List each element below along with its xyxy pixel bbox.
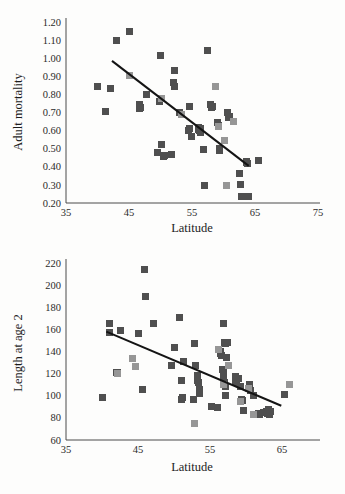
data-point-marker — [236, 170, 243, 177]
data-point-marker — [157, 52, 164, 59]
data-point-marker — [225, 362, 232, 369]
figure-container: 0.200.300.400.500.600.700.800.901.001.10… — [0, 0, 345, 494]
data-point-marker — [126, 28, 133, 35]
data-point-marker — [188, 133, 195, 140]
chart-panel-length-at-age-2: 608010012014016018020022035455565Latitud… — [0, 245, 345, 494]
data-point-marker — [222, 392, 229, 399]
data-point-marker — [176, 314, 183, 321]
data-point-marker — [240, 407, 247, 414]
data-point-marker — [223, 354, 230, 361]
data-point-marker — [107, 85, 114, 92]
data-point-marker — [114, 370, 121, 377]
y-tick-label: 1.20 — [43, 17, 61, 28]
x-tick-label: 45 — [133, 444, 144, 455]
data-point-marker — [132, 363, 139, 370]
data-point-marker — [171, 344, 178, 351]
data-point-marker — [178, 377, 185, 384]
data-point-marker — [113, 37, 120, 44]
x-tick-label: 65 — [250, 207, 261, 218]
y-axis-title: Length at age 2 — [11, 314, 25, 391]
x-tick-label: 35 — [61, 207, 72, 218]
data-point-marker — [215, 123, 222, 130]
y-tick-label: 0.20 — [43, 198, 61, 209]
data-point-marker — [250, 411, 257, 418]
y-tick-label: 0.70 — [43, 107, 61, 118]
y-axis-title: Adult mortality — [11, 73, 25, 151]
data-point-marker — [237, 398, 244, 405]
data-point-marker — [191, 340, 198, 347]
axis-spines — [66, 259, 320, 440]
y-tick-label: 120 — [45, 368, 61, 379]
data-point-marker — [141, 266, 148, 273]
data-point-marker — [171, 67, 178, 74]
data-point-marker — [220, 320, 227, 327]
y-tick-label: 180 — [45, 302, 61, 313]
y-tick-label: 60 — [51, 435, 62, 446]
y-tick-label: 0.40 — [43, 161, 61, 172]
data-point-marker — [94, 83, 101, 90]
data-point-marker — [139, 386, 146, 393]
data-point-marker — [267, 408, 274, 415]
x-tick-label: 65 — [277, 444, 288, 455]
x-axis-title: Latitude — [171, 221, 213, 235]
data-point-marker — [143, 91, 150, 98]
length-at-age-2-scatter-plot: 608010012014016018020022035455565Latitud… — [0, 245, 345, 494]
data-point-marker — [201, 182, 208, 189]
x-tick-label: 75 — [313, 207, 324, 218]
data-point-marker — [142, 293, 149, 300]
x-tick-label: 35 — [61, 444, 72, 455]
data-point-marker — [158, 141, 165, 148]
data-point-marker — [186, 103, 193, 110]
y-tick-label: 0.50 — [43, 143, 61, 154]
data-point-marker — [223, 182, 230, 189]
data-point-marker — [286, 381, 293, 388]
x-tick-label: 45 — [124, 207, 135, 218]
y-tick-label: 0.80 — [43, 89, 61, 100]
data-point-marker — [102, 108, 109, 115]
data-point-marker — [230, 118, 237, 125]
data-point-marker — [224, 339, 231, 346]
data-point-marker — [191, 420, 198, 427]
data-point-marker — [99, 394, 106, 401]
x-tick-label: 55 — [187, 207, 198, 218]
chart-panel-adult-mortality: 0.200.300.400.500.600.700.800.901.001.10… — [0, 0, 345, 247]
data-point-marker — [255, 157, 262, 164]
data-point-marker — [117, 327, 124, 334]
data-point-marker — [194, 372, 201, 379]
data-point-marker — [215, 346, 222, 353]
y-tick-label: 0.60 — [43, 125, 61, 136]
y-tick-label: 0.30 — [43, 180, 61, 191]
data-point-marker — [220, 372, 227, 379]
data-point-marker — [209, 103, 216, 110]
data-point-marker — [238, 193, 245, 200]
data-point-marker — [135, 330, 142, 337]
data-point-marker — [186, 125, 193, 132]
adult-mortality-scatter-plot: 0.200.300.400.500.600.700.800.901.001.10… — [0, 0, 345, 247]
y-tick-label: 200 — [45, 280, 61, 291]
data-point-marker — [212, 83, 219, 90]
data-point-marker — [195, 379, 202, 386]
y-tick-label: 220 — [45, 258, 61, 269]
data-point-marker — [137, 104, 144, 111]
data-point-marker — [235, 375, 242, 382]
y-tick-label: 140 — [45, 346, 61, 357]
data-point-marker — [171, 83, 178, 90]
data-point-marker — [245, 193, 252, 200]
data-point-marker — [150, 320, 157, 327]
data-point-marker — [196, 390, 203, 397]
x-tick-label: 55 — [205, 444, 216, 455]
y-tick-label: 1.00 — [43, 53, 61, 64]
data-point-marker — [168, 151, 175, 158]
data-point-marker — [179, 394, 186, 401]
data-point-marker — [214, 404, 221, 411]
x-axis-title: Latitude — [171, 460, 213, 474]
data-point-marker — [281, 391, 288, 398]
y-tick-label: 100 — [45, 390, 61, 401]
data-point-marker — [200, 146, 207, 153]
y-tick-label: 1.10 — [43, 35, 61, 46]
y-tick-label: 160 — [45, 324, 61, 335]
data-point-marker — [129, 355, 136, 362]
y-tick-label: 80 — [51, 412, 62, 423]
data-point-marker — [221, 137, 228, 144]
data-point-marker — [237, 181, 244, 188]
